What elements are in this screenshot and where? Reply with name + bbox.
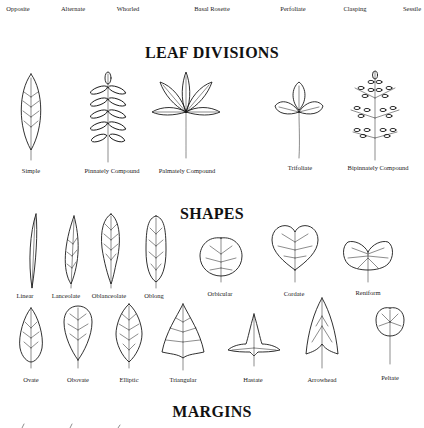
label-clasping: Clasping xyxy=(343,5,366,12)
label-pinnately-compound: Pinnately Compound xyxy=(84,167,139,174)
label-trifoliate: Trifoliate xyxy=(288,164,312,171)
arrowhead-leaf-icon xyxy=(302,296,342,370)
label-orbicular: Orbicular xyxy=(208,290,233,297)
label-obovate: Obovate xyxy=(67,376,89,383)
margins-heading: MARGINS xyxy=(0,403,424,421)
label-whorled: Whorled xyxy=(117,5,140,12)
orbicular-leaf-icon xyxy=(198,232,244,284)
ovate-leaf-icon xyxy=(16,306,46,370)
trifoliate-leaf-icon xyxy=(273,80,325,160)
label-linear: Linear xyxy=(17,292,34,299)
label-sessile: Sessile xyxy=(403,5,421,12)
simple-leaf-icon xyxy=(16,72,46,162)
triangular-leaf-icon xyxy=(160,302,206,372)
bipinnately-compound-leaf-icon xyxy=(343,68,407,162)
reniform-leaf-icon xyxy=(340,228,396,284)
palmately-compound-leaf-icon xyxy=(150,70,222,160)
label-oblanceolate: Oblanceolate xyxy=(92,292,126,299)
obovate-leaf-icon xyxy=(62,302,94,370)
label-hastate: Hastate xyxy=(243,376,263,383)
margin-leaf-tips-icon xyxy=(0,422,424,428)
label-basal-rosette: Basal Rosette xyxy=(194,5,230,12)
label-peltate: Peltate xyxy=(381,374,399,381)
label-arrowhead: Arrowhead xyxy=(307,376,336,383)
label-bipinnately-compound: Bipinnately Compound xyxy=(348,164,409,171)
cordate-leaf-icon xyxy=(270,222,320,284)
elliptic-leaf-icon xyxy=(114,302,144,370)
linear-leaf-icon xyxy=(24,212,40,290)
pinnately-compound-leaf-icon xyxy=(86,70,130,164)
label-palmately-compound: Palmately Compound xyxy=(159,167,216,174)
hastate-leaf-icon xyxy=(226,312,282,368)
leaf-divisions-heading: LEAF DIVISIONS xyxy=(0,44,424,62)
oblong-leaf-icon xyxy=(144,214,168,290)
label-oblong: Oblong xyxy=(144,292,164,299)
lanceolate-leaf-icon xyxy=(58,214,84,290)
label-ovate: Ovate xyxy=(23,376,39,383)
peltate-leaf-icon xyxy=(372,304,408,366)
label-perfoliate: Perfoliate xyxy=(280,5,305,12)
label-reniform: Reniform xyxy=(356,289,381,296)
label-triangular: Triangular xyxy=(169,376,196,383)
label-elliptic: Elliptic xyxy=(119,376,138,383)
label-opposite: Opposite xyxy=(6,5,29,12)
label-simple: Simple xyxy=(22,167,40,174)
label-alternate: Alternate xyxy=(61,5,85,12)
label-lanceolate: Lanceolate xyxy=(52,292,81,299)
oblanceolate-leaf-icon xyxy=(98,212,124,290)
